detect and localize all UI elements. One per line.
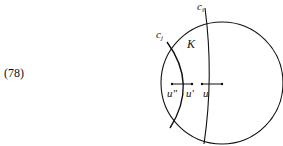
label-cj: cj: [156, 28, 163, 42]
curve-cj: [167, 42, 183, 128]
label-region-k: K: [186, 37, 196, 51]
label-u: u: [203, 87, 209, 99]
label-u-double-prime: u″: [167, 87, 178, 99]
point-endpoint: [171, 83, 173, 85]
curve-ci: [204, 8, 209, 144]
point-endpoint: [221, 83, 223, 85]
label-u-prime: u′: [186, 87, 195, 99]
point-endpoint: [201, 83, 203, 85]
circle-diagram: ci cj K u″ u′ u: [0, 0, 283, 146]
point-endpoint: [191, 83, 193, 85]
label-ci: ci: [197, 0, 204, 14]
